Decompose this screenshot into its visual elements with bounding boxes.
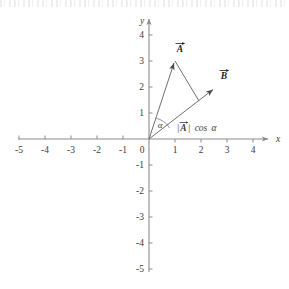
projection-angle-symbol: α	[212, 123, 218, 133]
x-axis-tick-labels: -5 -4 -3 -2 -1 0 1 2 3 4	[15, 145, 256, 155]
x-tick-label-1: 1	[173, 145, 178, 155]
x-tick-label--3: -3	[67, 145, 75, 155]
x-tick-label-0: 0	[140, 145, 145, 155]
x-tick-label-4: 4	[251, 145, 256, 155]
vector-b-label-group: B	[220, 69, 229, 81]
x-tick-label-2: 2	[199, 145, 204, 155]
x-tick-label--2: -2	[93, 145, 101, 155]
y-tick-label--1: -1	[136, 160, 144, 170]
x-tick-label--1: -1	[119, 145, 127, 155]
vector-projection-plot: -5 -4 -3 -2 -1 0 1 2 3 4 4 3 2 1 -1 -2 -…	[0, 0, 289, 289]
figure-root: -5 -4 -3 -2 -1 0 1 2 3 4 4 3 2 1 -1 -2 -…	[0, 0, 289, 289]
vector-a-label-group: A	[176, 42, 185, 54]
y-tick-label--3: -3	[136, 212, 144, 222]
x-axis-label: x	[275, 134, 281, 144]
y-tick-label-2: 2	[139, 82, 144, 92]
x-tick-label--5: -5	[15, 145, 23, 155]
projection-magnitude-label-group: | A | cos α	[177, 121, 218, 133]
alpha-angle-label: α	[158, 120, 163, 130]
projection-bar-right: |	[188, 123, 191, 133]
y-tick-label--5: -5	[136, 264, 144, 274]
x-tick-label--4: -4	[41, 145, 49, 155]
projection-vector-letter: A	[179, 123, 186, 133]
projection-trig-function: cos	[195, 123, 208, 133]
y-axis-label: y	[139, 16, 145, 26]
vector-b-label: B	[220, 71, 227, 81]
projection-perpendicular-line	[175, 61, 199, 101]
projection-bar-left: |	[177, 123, 180, 133]
y-tick-label-4: 4	[139, 30, 144, 40]
vector-b-label-overarrow-head	[226, 69, 229, 72]
vector-a-label: A	[176, 44, 183, 54]
y-tick-label-3: 3	[139, 56, 144, 66]
y-tick-label--4: -4	[136, 238, 144, 248]
y-tick-label-1: 1	[139, 108, 144, 118]
x-tick-label-3: 3	[225, 145, 230, 155]
vector-a-label-overarrow-head	[182, 42, 185, 45]
y-tick-label--2: -2	[136, 186, 144, 196]
